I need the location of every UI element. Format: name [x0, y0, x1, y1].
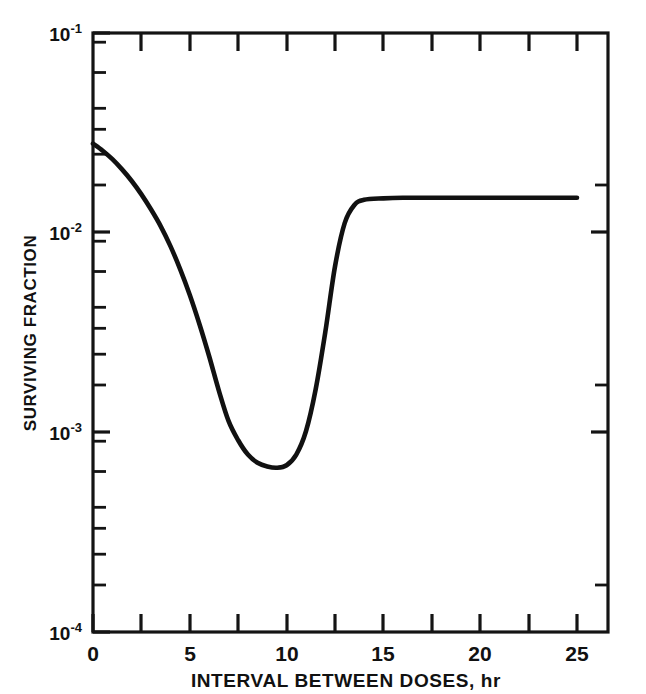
x-tick-label-5: 25 [565, 642, 589, 665]
y-axis-minor-ticks [93, 42, 106, 585]
y-tick-label-1: 10-2 [49, 220, 82, 244]
x-axis-bottom-ticks [93, 614, 577, 632]
y-tick-label-2: 10-3 [49, 420, 82, 444]
y-tick-label-0: 10-1 [49, 21, 82, 45]
x-tick-label-3: 15 [371, 642, 395, 665]
x-axis-top-ticks [141, 33, 577, 51]
right-axis-minor-ticks [595, 185, 608, 585]
y-tick-labels: 10-1 10-2 10-3 10-4 [49, 21, 82, 644]
y-axis-title: SURVIVING FRACTION [21, 235, 40, 432]
y-tick-label-3: 10-4 [49, 620, 82, 644]
x-tick-label-4: 20 [468, 642, 491, 665]
chart-figure: 10-1 10-2 10-3 10-4 0 5 10 15 20 25 INTE… [0, 0, 646, 694]
x-tick-labels: 0 5 10 15 20 25 [87, 642, 589, 665]
x-axis-title: INTERVAL BETWEEN DOSES, hr [191, 670, 501, 691]
data-curve [93, 144, 577, 468]
y-axis-major-ticks [93, 33, 110, 632]
x-tick-label-0: 0 [87, 642, 99, 665]
plot-frame [93, 33, 608, 632]
right-axis-ticks [591, 232, 608, 432]
x-tick-label-2: 10 [275, 642, 298, 665]
x-tick-label-1: 5 [184, 642, 196, 665]
